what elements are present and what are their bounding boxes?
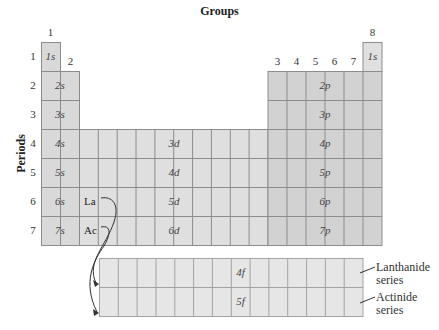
actinide-line2: series [376, 304, 417, 317]
orbital-6d: 6d [164, 224, 184, 236]
orbital-1s: 1s [41, 50, 60, 62]
orbital-3p: 3p [268, 108, 382, 120]
orbital-5s: 5s [41, 166, 79, 178]
orbital-3d: 3d [164, 137, 184, 149]
element-la: La [84, 195, 96, 207]
orbital-6s: 6s [41, 195, 79, 207]
orbital-6p: 6p [268, 195, 382, 207]
orbital-2p: 2p [268, 79, 382, 91]
orbital-5f: 5f [231, 295, 250, 307]
orbital-1s-group8: 1s [363, 50, 382, 62]
orbital-5p: 5p [268, 166, 382, 178]
orbital-4s: 4s [41, 137, 79, 149]
orbital-2s: 2s [41, 79, 79, 91]
orbital-4p: 4p [268, 137, 382, 149]
element-ac: Ac [84, 224, 97, 236]
orbital-7p: 7p [268, 224, 382, 236]
orbital-4d: 4d [164, 166, 184, 178]
orbital-7s: 7s [41, 224, 79, 236]
lanthanide-series-label: Lanthanide series [376, 261, 430, 287]
lanthanide-line2: series [376, 274, 430, 287]
orbital-5d: 5d [164, 195, 184, 207]
orbital-3s: 3s [41, 108, 79, 120]
actinide-series-label: Actinide series [376, 291, 417, 317]
orbital-4f: 4f [231, 266, 250, 278]
